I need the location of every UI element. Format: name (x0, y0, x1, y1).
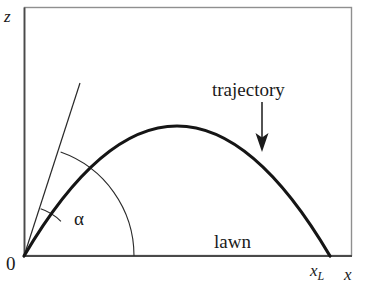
launch-tangent-line (24, 83, 80, 256)
x-landing-base: x (310, 261, 318, 280)
trajectory-text-label: trajectory (212, 80, 285, 99)
z-axis-label: z (4, 8, 11, 25)
x-axis-label: x (344, 266, 352, 283)
angle-alpha-label: α (74, 209, 84, 228)
angle-arc-outer (61, 152, 134, 256)
trajectory-figure: z 0 xL x α trajectory lawn (0, 0, 366, 296)
trajectory-curve (24, 126, 330, 256)
origin-label: 0 (6, 254, 16, 273)
figure-canvas (0, 0, 366, 296)
x-landing-label: xL (310, 262, 324, 282)
lawn-text-label: lawn (214, 232, 251, 251)
x-landing-subscript: L (318, 269, 325, 283)
